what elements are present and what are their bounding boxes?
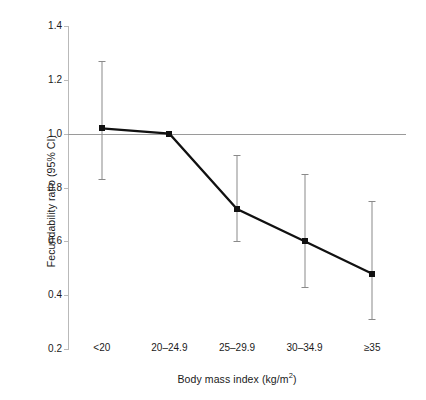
data-point-marker — [99, 125, 105, 131]
data-point-marker — [234, 206, 240, 212]
x-axis-title: Body mass index (kg/m2) — [68, 371, 406, 385]
x-axis-tick-label: ≥35 — [364, 343, 381, 353]
series-line — [0, 0, 426, 400]
x-axis-tick-label: 20–24.9 — [151, 343, 187, 353]
x-axis-title-exponent: 2 — [289, 371, 293, 380]
plot-area — [0, 0, 426, 400]
x-axis-tick-label: 25–29.9 — [219, 343, 255, 353]
x-axis-tick-label: <20 — [93, 343, 110, 353]
chart-figure: Fecundability ratio (95% CI) 1.41.21.00.… — [0, 0, 426, 400]
data-point-marker — [369, 271, 375, 277]
x-axis-tick-label: 30–34.9 — [287, 343, 323, 353]
data-point-marker — [166, 131, 172, 137]
data-point-marker — [302, 238, 308, 244]
